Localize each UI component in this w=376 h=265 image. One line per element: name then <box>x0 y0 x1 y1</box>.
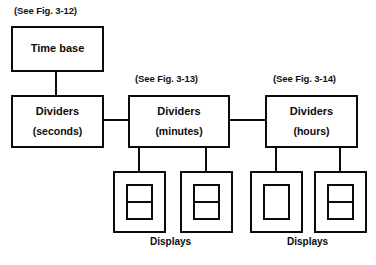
display-digit-outline <box>126 184 153 220</box>
block-dividers-seconds: Dividers(seconds) <box>11 95 104 148</box>
connector-wire-seconds-to-minutes <box>104 119 129 122</box>
caption-cap-minutes: (See Fig. 3-13) <box>135 73 198 84</box>
seven-segment-display-icon <box>180 171 233 233</box>
connector-wire-timebase-to-seconds <box>55 72 58 96</box>
block-label-primary: Dividers <box>36 105 79 119</box>
block-dividers-minutes: Dividers(minutes) <box>128 95 230 148</box>
display-digit-outline <box>263 184 290 220</box>
caption-cap-hours: (See Fig. 3-14) <box>273 73 336 84</box>
caption-cap-time-base: (See Fig. 3-12) <box>14 5 77 16</box>
connector-wire-hours-stem-right <box>339 148 342 172</box>
seven-segment-display-icon <box>113 171 166 233</box>
block-label-secondary: (minutes) <box>155 125 202 138</box>
display-middle-segment <box>128 201 151 204</box>
block-label-primary: Time base <box>31 42 85 56</box>
connector-wire-minutes-stem-right <box>205 148 208 172</box>
connector-wire-hours-stem-left <box>275 148 278 172</box>
block-label-primary: Dividers <box>290 105 333 119</box>
seven-segment-display-icon <box>250 171 303 233</box>
block-label-secondary: (hours) <box>293 125 329 138</box>
display-middle-segment <box>195 201 218 204</box>
connector-wire-minutes-to-hours <box>230 119 266 122</box>
block-time-base: Time base <box>11 26 104 72</box>
display-middle-segment <box>329 201 352 204</box>
seven-segment-display-icon <box>314 171 367 233</box>
display-digit-outline <box>327 184 354 220</box>
connector-wire-minutes-stem-left <box>138 148 141 172</box>
label-label-displays-minutes: Displays <box>150 236 191 247</box>
block-diagram-canvas: Time baseDividers(seconds)Dividers(minut… <box>0 0 376 265</box>
block-label-primary: Dividers <box>157 105 200 119</box>
block-dividers-hours: Dividers(hours) <box>265 95 358 148</box>
block-label-secondary: (seconds) <box>33 125 83 138</box>
label-label-displays-hours: Displays <box>287 236 328 247</box>
display-digit-outline <box>193 184 220 220</box>
